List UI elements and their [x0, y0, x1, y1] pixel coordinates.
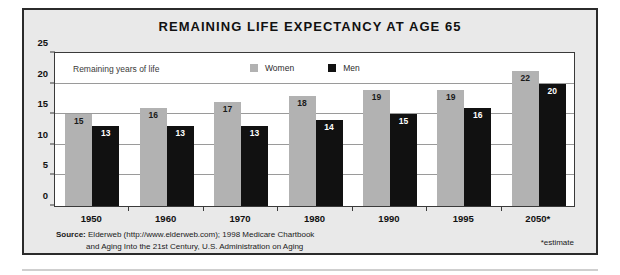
- x-axis-tick-mark: [352, 207, 353, 211]
- bar-group: 1713: [214, 53, 268, 206]
- estimate-footnote: *estimate: [541, 238, 574, 247]
- bar-women-1960: 16: [140, 108, 167, 206]
- x-axis: 1950196019701980199019952050*: [54, 210, 575, 226]
- plot-wrapper: 0510152025 Remaining years of life Women…: [54, 52, 575, 207]
- bar-men-1995: 16: [464, 108, 491, 206]
- y-axis-tick-label: 20: [37, 67, 48, 78]
- chart-panel: REMAINING LIFE EXPECTANCY AT AGE 65 0510…: [22, 8, 598, 255]
- bar-group: 2220: [512, 53, 566, 206]
- x-axis-tick-mark: [277, 207, 278, 211]
- y-axis-tick-label: 25: [37, 37, 48, 48]
- source-note: Source: Elderweb (http://www.elderweb.co…: [56, 229, 314, 252]
- bar-value-label: 19: [363, 93, 390, 102]
- bar-men-1950: 13: [92, 126, 119, 206]
- x-axis-tick-label: 1970: [229, 213, 250, 224]
- bar-women-2050: 22: [512, 71, 539, 206]
- bar-value-label: 17: [214, 105, 241, 114]
- bar-value-label: 22: [512, 74, 539, 83]
- bar-men-1980: 14: [316, 120, 343, 206]
- bar-women-1970: 17: [214, 102, 241, 206]
- bar-men-1990: 15: [390, 114, 417, 206]
- x-axis-tick-mark: [203, 207, 204, 211]
- x-axis-tick-label: 1995: [453, 213, 474, 224]
- page-title: REMAINING LIFE EXPECTANCY AT AGE 65: [24, 19, 596, 34]
- x-axis-tick-label: 1950: [81, 213, 102, 224]
- bar-value-label: 19: [437, 93, 464, 102]
- x-axis-tick-mark: [128, 207, 129, 211]
- bar-women-1990: 19: [363, 90, 390, 206]
- bar-women-1950: 15: [65, 114, 92, 206]
- y-axis-tick-label: 15: [37, 98, 48, 109]
- bar-value-label: 13: [241, 129, 268, 138]
- source-label: Source:: [56, 230, 86, 239]
- x-axis-tick-mark: [501, 207, 502, 211]
- bar-group: 1613: [140, 53, 194, 206]
- x-axis-tick-label: 1960: [155, 213, 176, 224]
- bar-group: 1513: [65, 53, 119, 206]
- x-axis-tick-label: 2050*: [525, 213, 550, 224]
- bar-group: 1916: [437, 53, 491, 206]
- bar-women-1995: 19: [437, 90, 464, 206]
- bar-value-label: 16: [464, 111, 491, 120]
- source-line-1: Elderweb (http://www.elderweb.com); 1998…: [88, 230, 314, 239]
- bar-group: 1915: [363, 53, 417, 206]
- plot-area: 0510152025 Remaining years of life Women…: [54, 52, 575, 207]
- bar-women-1980: 18: [289, 96, 316, 206]
- next-panel-divider: [22, 269, 598, 271]
- x-axis-tick-label: 1990: [378, 213, 399, 224]
- bar-value-label: 14: [316, 123, 343, 132]
- bar-value-label: 15: [390, 117, 417, 126]
- bar-value-label: 18: [289, 99, 316, 108]
- y-axis-tick-label: 0: [43, 190, 48, 201]
- bar-group: 1814: [289, 53, 343, 206]
- bar-men-1960: 13: [167, 126, 194, 206]
- x-axis-tick-mark: [426, 207, 427, 211]
- bar-value-label: 15: [65, 117, 92, 126]
- bar-men-1970: 13: [241, 126, 268, 206]
- bar-value-label: 13: [167, 129, 194, 138]
- bar-men-2050: 20: [539, 84, 566, 206]
- y-axis-tick-label: 5: [43, 159, 48, 170]
- source-line-2: and Aging Into the 21st Century, U.S. Ad…: [56, 241, 314, 253]
- y-axis-tick-label: 10: [37, 128, 48, 139]
- x-axis-tick-label: 1980: [304, 213, 325, 224]
- bar-value-label: 20: [539, 87, 566, 96]
- bar-value-label: 16: [140, 111, 167, 120]
- bars-layer: 1513161317131814191519162220: [55, 53, 574, 206]
- bar-value-label: 13: [92, 129, 119, 138]
